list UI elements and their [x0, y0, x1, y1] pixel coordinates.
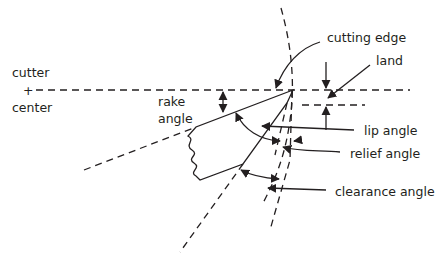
clearance-angle-label: clearance angle [335, 184, 435, 199]
relief-angle-label: relief angle [350, 146, 421, 161]
clearance-angle-arc [241, 170, 279, 179]
rake-face-extension [84, 127, 196, 170]
lip-angle-leader [262, 126, 354, 130]
cutting-edge-label: cutting edge [327, 30, 406, 45]
lip-angle-label: lip angle [364, 123, 418, 138]
angle-label: angle [158, 111, 193, 126]
rake-label: rake [158, 94, 186, 109]
tooth-geometry-diagram: cutter + center rake angle cutting edge … [0, 0, 439, 266]
land-label: land [376, 53, 403, 68]
clearance-angle-leader [268, 188, 326, 190]
clearance-line [180, 164, 243, 252]
relief-angle-arrow [294, 140, 300, 141]
land-leader [328, 65, 370, 98]
center-label: center [12, 100, 53, 115]
cutter-circle-arc [262, 8, 292, 205]
cutter-label: cutter [12, 65, 50, 80]
cutter-center-mark: + [23, 83, 33, 98]
relief-angle-leader [283, 147, 340, 152]
cutting-edge-leader [276, 42, 320, 88]
